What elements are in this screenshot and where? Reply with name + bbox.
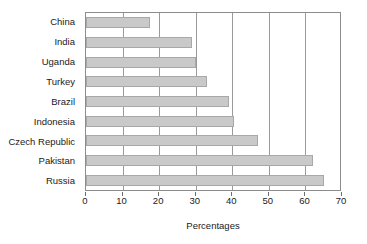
bar: [86, 37, 192, 48]
x-tick-label: 20: [153, 196, 164, 206]
bar: [86, 135, 258, 146]
x-axis-title: Percentages: [85, 221, 341, 231]
bar-chart: ChinaIndiaUgandaTurkeyBrazilIndonesiaCze…: [0, 0, 367, 244]
y-axis-label: Turkey: [0, 72, 80, 92]
x-axis-ticks: 010203040506070: [85, 192, 341, 206]
y-axis-label: Russia: [0, 171, 80, 191]
bar-row: [86, 52, 340, 72]
bar-series: [86, 13, 340, 190]
y-axis-label: Indonesia: [0, 111, 80, 131]
bar-row: [86, 111, 340, 131]
bar: [86, 96, 229, 107]
bar: [86, 57, 196, 68]
y-axis-label: Uganda: [0, 52, 80, 72]
x-tick-label: 10: [116, 196, 127, 206]
y-axis-label: Pakistan: [0, 151, 80, 171]
bar-row: [86, 72, 340, 92]
bar-row: [86, 92, 340, 112]
x-tick-label: 40: [226, 196, 237, 206]
bar-row: [86, 170, 340, 190]
y-axis-label: Brazil: [0, 92, 80, 112]
bar-row: [86, 131, 340, 151]
bar-row: [86, 33, 340, 53]
y-axis-label: India: [0, 32, 80, 52]
y-axis-label: Czech Republic: [0, 131, 80, 151]
x-tick-label: 70: [336, 196, 347, 206]
x-tick-label: 0: [82, 196, 87, 206]
bar: [86, 76, 207, 87]
bar: [86, 155, 313, 166]
x-tick-label: 50: [263, 196, 274, 206]
y-axis-category-labels: ChinaIndiaUgandaTurkeyBrazilIndonesiaCze…: [0, 12, 80, 191]
bar: [86, 116, 234, 127]
bar-row: [86, 13, 340, 33]
bar: [86, 175, 324, 186]
bar: [86, 17, 150, 28]
x-tick-label: 30: [189, 196, 200, 206]
plot-area: [85, 12, 341, 191]
y-axis-label: China: [0, 12, 80, 32]
bar-row: [86, 151, 340, 171]
x-tick-label: 60: [299, 196, 310, 206]
